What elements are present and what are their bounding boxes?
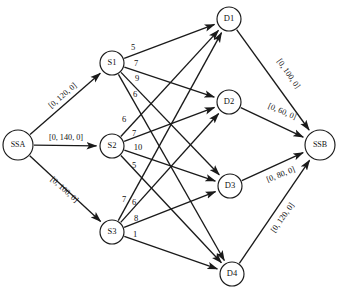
node-d4[interactable]: D4 <box>220 262 244 286</box>
cost-label-s3-d2: 6 <box>132 197 136 207</box>
node-ssb[interactable]: SSB <box>305 130 335 160</box>
cost-label-s2-d2: 7 <box>132 128 136 138</box>
capacity-label-ssa-s3: [0, 100, 0] <box>49 175 81 205</box>
node-label-d2: D2 <box>224 96 234 106</box>
node-label-d4: D4 <box>227 268 238 278</box>
node-ssa[interactable]: SSA <box>3 130 33 160</box>
node-label-d3: D3 <box>225 180 235 190</box>
source-arc-ssa-to-s2 <box>34 145 97 146</box>
capacity-label-ssa-s2: [0, 140, 0] <box>49 133 83 142</box>
transport-arc-s1-to-d1 <box>124 24 214 58</box>
transport-arc-s2-to-d1 <box>121 30 219 136</box>
node-label-d1: D1 <box>224 13 234 23</box>
transport-arc-s3-to-d4 <box>124 236 217 269</box>
node-label-s3: S3 <box>108 226 117 236</box>
nodes-layer: SSAS1S2S3D1D2D3D4SSB <box>3 7 335 286</box>
network-diagram: SSAS1S2S3D1D2D3D4SSB 5796671057681[0, 12… <box>0 0 343 297</box>
capacity-label-d2-ssb: [0, 60, 0] <box>267 101 298 121</box>
cost-label-s3-d1: 7 <box>122 194 126 204</box>
node-s1[interactable]: S1 <box>100 51 124 75</box>
cost-label-s1-d4: 6 <box>133 89 137 99</box>
edge-labels-layer: 5796671057681[0, 120, 0][0, 140, 0][0, 1… <box>47 42 302 239</box>
cost-label-s1-d3: 9 <box>135 73 139 83</box>
node-d1[interactable]: D1 <box>217 7 241 31</box>
transport-arc-s2-to-d3 <box>124 150 215 181</box>
node-d2[interactable]: D2 <box>217 90 241 114</box>
cost-label-s2-d4: 5 <box>132 160 136 170</box>
edges-layer <box>30 24 310 268</box>
cost-label-s2-d3: 10 <box>134 142 143 152</box>
node-s2[interactable]: S2 <box>100 134 124 158</box>
network-graph-canvas: SSAS1S2S3D1D2D3D4SSB 5796671057681[0, 12… <box>0 0 343 297</box>
node-s3[interactable]: S3 <box>100 220 124 244</box>
node-label-ssa: SSA <box>11 140 26 149</box>
node-d3[interactable]: D3 <box>218 174 242 198</box>
capacity-label-d1-ssb: [0, 100, 0] <box>275 57 302 90</box>
cost-label-s3-d4: 1 <box>133 229 137 239</box>
node-label-s1: S1 <box>108 57 117 67</box>
cost-label-s1-d2: 7 <box>134 58 138 68</box>
cost-label-s1-d1: 5 <box>131 42 135 52</box>
cost-label-s2-d1: 6 <box>122 114 126 124</box>
capacity-label-d4-ssb: [0, 120, 0] <box>269 201 296 234</box>
transport-arc-s2-to-d2 <box>124 107 214 141</box>
source-arc-ssa-to-s1 <box>30 73 100 134</box>
node-label-ssb: SSB <box>313 140 327 149</box>
node-label-s2: S2 <box>108 140 117 150</box>
cost-label-s3-d3: 8 <box>134 213 138 223</box>
